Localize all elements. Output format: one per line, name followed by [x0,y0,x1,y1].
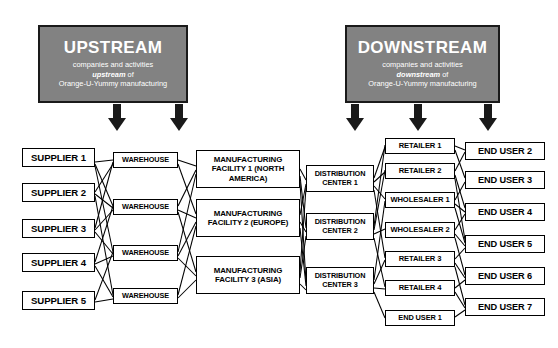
node-distribution-center-1[interactable]: DISTRIBUTION CENTER 1 [306,165,374,192]
upstream-sub-line3: Orange-U-Yummy manufacturing [59,79,167,88]
downstream-sub-line1: companies and activities [382,60,463,69]
node-manufacturing-facility-3[interactable]: MANUFACTURING FACILITY 3 (ASIA) [196,256,300,294]
node-wholesaler-2[interactable]: WHOLESALER 2 [385,222,455,238]
supply-chain-diagram: UPSTREAM companies and activities upstre… [0,0,558,348]
node-retailer-2[interactable]: RETAILER 2 [385,163,455,179]
node-distribution-center-2[interactable]: DISTRIBUTION CENTER 2 [306,213,374,240]
node-end-user-5[interactable]: END USER 5 [465,235,545,253]
node-retailer-4[interactable]: RETAILER 4 [385,280,455,296]
node-end-user-3[interactable]: END USER 3 [465,171,545,189]
node-supplier-1[interactable]: SUPPLIER 1 [22,148,95,167]
node-end-user-2[interactable]: END USER 2 [465,142,545,160]
node-manufacturing-facility-1[interactable]: MANUFACTURING FACILITY 1 (NORTH AMERICA) [196,150,300,188]
node-end-user-1[interactable]: END USER 1 [385,310,455,326]
downstream-sub-line3: Orange-U-Yummy manufacturing [368,79,476,88]
upstream-sub-emphasis: upstream [92,70,125,79]
upstream-sub-line1: companies and activities [73,60,154,69]
upstream-sub-line2-tail: of [126,70,134,79]
downstream-header-box: DOWNSTREAM companies and activities down… [345,25,500,103]
node-distribution-center-3[interactable]: DISTRIBUTION CENTER 3 [306,267,374,294]
node-manufacturing-facility-2[interactable]: MANUFACTURING FACILITY 2 (EUROPE) [196,199,300,237]
downstream-subtitle: companies and activities downstream of O… [368,60,476,89]
node-supplier-4[interactable]: SUPPLIER 4 [22,253,95,272]
node-end-user-6[interactable]: END USER 6 [465,267,545,285]
node-retailer-3[interactable]: RETAILER 3 [385,251,455,267]
downstream-sub-line2-tail: of [440,70,448,79]
node-supplier-5[interactable]: SUPPLIER 5 [22,291,95,310]
node-warehouse-3[interactable]: WAREHOUSE [113,245,178,261]
upstream-header-box: UPSTREAM companies and activities upstre… [38,25,188,103]
node-retailer-1[interactable]: RETAILER 1 [385,138,455,154]
node-warehouse-2[interactable]: WAREHOUSE [113,199,178,215]
node-supplier-2[interactable]: SUPPLIER 2 [22,183,95,202]
node-end-user-7[interactable]: END USER 7 [465,298,545,316]
downstream-title: DOWNSTREAM [358,39,488,57]
node-supplier-3[interactable]: SUPPLIER 3 [22,219,95,238]
node-end-user-4[interactable]: END USER 4 [465,203,545,221]
node-warehouse-4[interactable]: WAREHOUSE [113,288,178,304]
upstream-subtitle: companies and activities upstream of Ora… [59,60,167,89]
downstream-sub-emphasis: downstream [397,70,441,79]
node-wholesaler-1[interactable]: WHOLESALER 1 [385,192,455,208]
upstream-title: UPSTREAM [64,39,163,57]
node-warehouse-1[interactable]: WAREHOUSE [113,152,178,168]
